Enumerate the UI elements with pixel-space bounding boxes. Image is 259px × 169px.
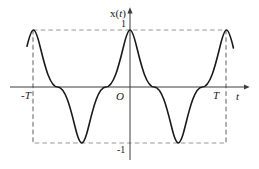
x-axis-title: t (236, 91, 239, 102)
tick-label-minus-one: -1 (117, 145, 125, 155)
tick-label-minus-T: -T (21, 90, 31, 101)
tick-label-plus-T: T (213, 90, 219, 101)
origin-label: O (116, 91, 124, 102)
waveform-plot-canvas (0, 0, 259, 169)
cosine-waveform-figure: x(t) t O -T T 1 -1 (0, 0, 259, 169)
tick-label-one: 1 (121, 19, 126, 29)
